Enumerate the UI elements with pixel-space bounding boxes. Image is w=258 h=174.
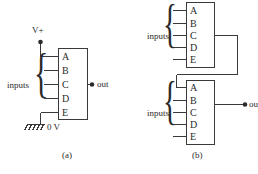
pin-label-a-d: D	[62, 94, 69, 104]
pin-label-b-top-e: E	[190, 55, 196, 65]
ground-hatch-4	[37, 125, 40, 131]
pin-label-b-bottom-e: E	[190, 132, 196, 142]
ground-label: 0 V	[47, 123, 60, 132]
inputs-brace-a: {	[34, 44, 48, 100]
output-terminal-dot-b	[243, 102, 248, 107]
output-label-a: out	[97, 80, 109, 89]
pin-label-b-top-d: D	[190, 43, 197, 53]
pin-label-a-b: B	[62, 66, 69, 76]
vplus-label: V+	[32, 26, 44, 35]
pin-label-b-top-b: B	[190, 19, 197, 29]
caption-a: (a)	[62, 151, 72, 160]
circuit-figure: V+ 0 V inputs { A B C D E out (a) inputs…	[0, 0, 258, 174]
pin-label-a-e: E	[62, 108, 68, 118]
ground-hatch-2	[29, 125, 32, 131]
ground-hatch-3	[33, 125, 36, 131]
pin-label-a-c: C	[62, 80, 69, 90]
ground-hatch-5	[41, 125, 44, 131]
output-terminal-dot-a	[90, 82, 95, 87]
inputs-label-a: inputs	[7, 81, 29, 90]
pin-label-b-bottom-d: D	[190, 120, 197, 130]
pin-label-b-bottom-b: B	[190, 96, 197, 106]
pin-label-b-top-c: C	[190, 31, 197, 41]
pin-label-b-top-a: A	[190, 6, 197, 16]
pin-label-b-bottom-c: C	[190, 108, 197, 118]
caption-b: (b)	[192, 151, 203, 160]
inputs-brace-b-bottom: {	[163, 74, 177, 126]
pin-label-a-a: A	[62, 52, 69, 62]
inputs-brace-b-top: {	[163, 0, 177, 50]
pin-label-b-bottom-a: A	[190, 83, 197, 93]
ground-hatch-1	[25, 125, 28, 131]
output-label-b: out	[249, 100, 258, 109]
